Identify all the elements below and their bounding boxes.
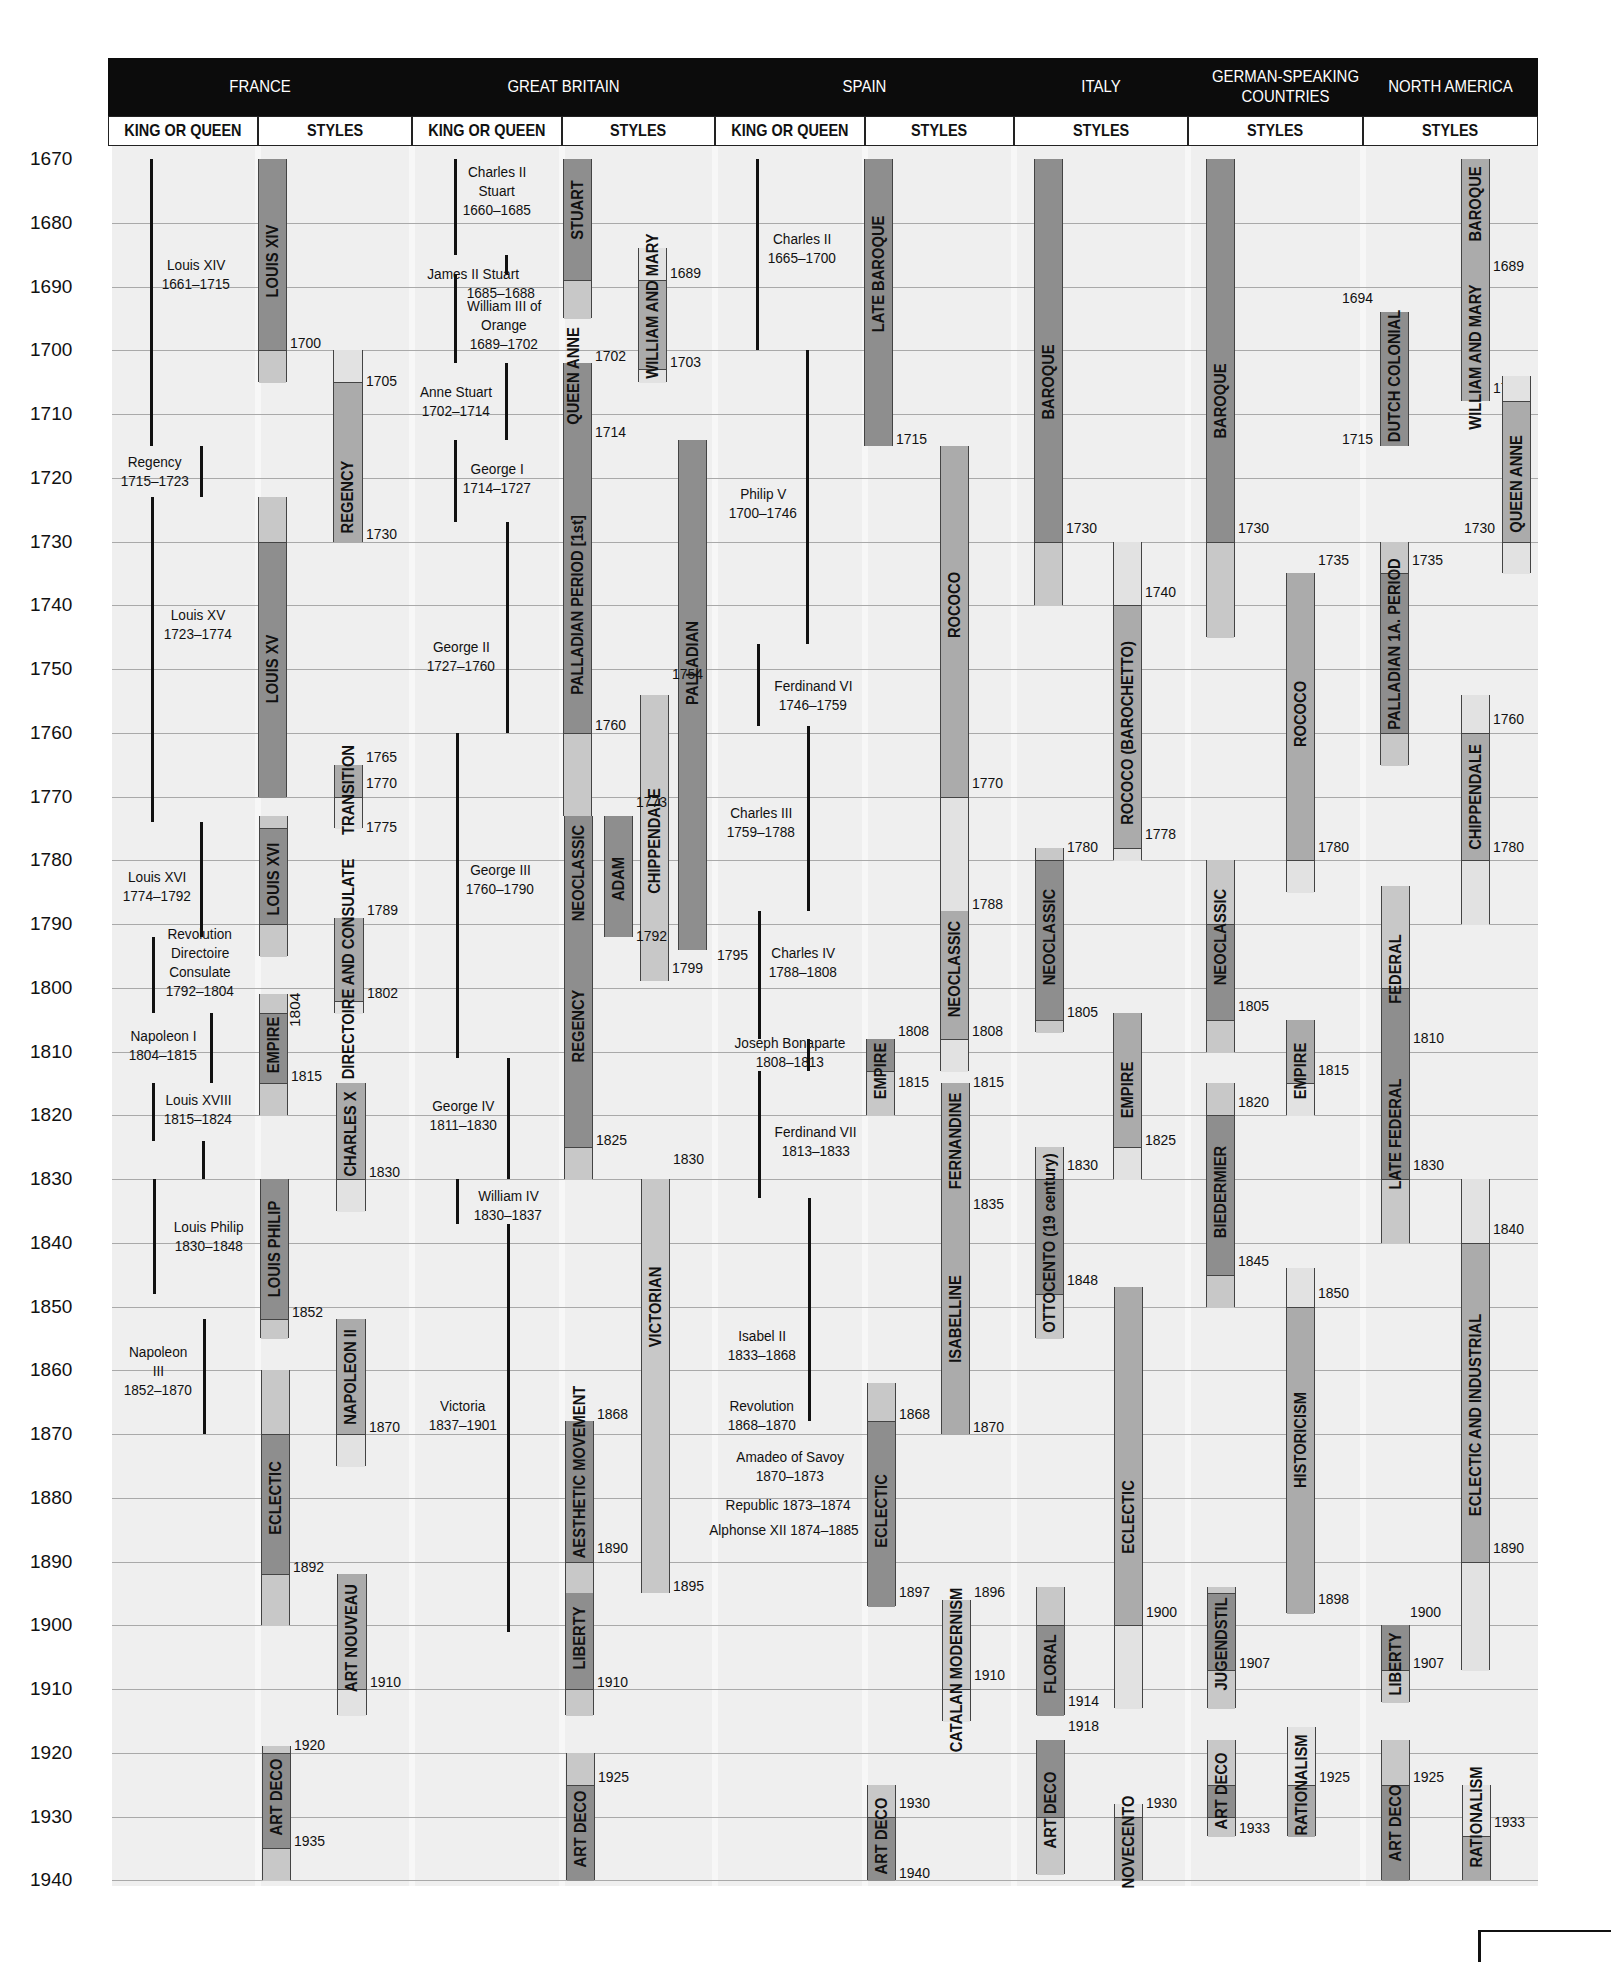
- style-year-label: 1925: [598, 1768, 629, 1786]
- style-bar-label: ECLECTIC: [1120, 1480, 1138, 1554]
- year-tick-label: 1800: [30, 977, 90, 999]
- reign-label-line: Ferdinand VII: [775, 1122, 857, 1141]
- style-bar-segment: [259, 497, 286, 542]
- year-tick-label: 1760: [30, 722, 90, 744]
- style-year-label: 1920: [294, 1736, 325, 1754]
- year-tick-label: 1830: [30, 1168, 90, 1190]
- style-year-label: 1735: [1318, 551, 1349, 569]
- reign-label-line: 1808–1813: [756, 1052, 824, 1071]
- style-bar-label: BIEDERMIER: [1212, 1146, 1230, 1238]
- year-tick-label: 1910: [30, 1678, 90, 1700]
- style-year-label: 1933: [1494, 1813, 1525, 1831]
- gridline: [112, 1562, 1538, 1563]
- style-bar-label: PALLADIAN PERIOD [1st]: [569, 515, 587, 695]
- style-bar-label: BAROQUE: [1212, 364, 1230, 439]
- year-tick-label: 1840: [30, 1232, 90, 1254]
- style-bar-label: OTTOCENTO (19 century): [1041, 1153, 1059, 1332]
- gridline: [112, 1115, 1538, 1116]
- style-year-label: 1730: [1066, 519, 1097, 537]
- subcolumn-header-label: STYLES: [1422, 121, 1478, 141]
- style-year-label: 1702: [595, 347, 626, 365]
- style-bar-label: ISABELLINE: [947, 1275, 965, 1363]
- style-year-label: 1689: [1493, 257, 1524, 275]
- reign-label-line: Charles III: [730, 803, 792, 822]
- style-bar-label: REGENCY: [570, 990, 588, 1063]
- style-bar-segment: [1381, 733, 1408, 766]
- reign-label-line: 1689–1702: [470, 334, 538, 353]
- gridline: [112, 1434, 1538, 1435]
- style-year-label: 1703: [670, 353, 701, 371]
- reign-label-line: George II: [433, 637, 490, 656]
- style-bar-label: LOUIS PHILIP: [266, 1201, 284, 1298]
- country-header: GREAT BRITAIN: [430, 58, 697, 116]
- style-year-label: 1830: [1413, 1156, 1444, 1174]
- reign-duration-line: [150, 159, 153, 446]
- style-bar-label: ART DECO: [1213, 1753, 1231, 1830]
- style-bar-label: FEDERAL: [1387, 934, 1405, 1004]
- reign-duration-line: [202, 1141, 205, 1179]
- style-bar-label: ROCOCO: [1292, 681, 1310, 747]
- year-tick-label: 1670: [30, 148, 90, 170]
- style-bar-label: CHARLES X: [342, 1092, 360, 1177]
- reign-label: George IV1811–1830: [373, 1096, 553, 1134]
- reign-label: George III1760–1790: [410, 860, 590, 898]
- gridline: [112, 1817, 1538, 1818]
- year-tick-label: 1710: [30, 403, 90, 425]
- style-year-label: 1740: [1145, 583, 1176, 601]
- style-year-label: 1760: [1493, 710, 1524, 728]
- country-header: GERMAN-SPEAKING COUNTRIES: [1200, 58, 1372, 116]
- reign-label-line: 1792–1804: [166, 981, 234, 1000]
- style-bar-label: EMPIRE: [1292, 1042, 1310, 1098]
- style-bar-segment: [1462, 1562, 1489, 1671]
- style-year-label: 1754: [672, 665, 703, 683]
- gridline: [112, 1179, 1538, 1180]
- reign-label: James II Stuart: [383, 264, 563, 283]
- style-year-label: 1789: [367, 901, 398, 919]
- style-bar-segment: [642, 1179, 669, 1593]
- style-year-label: 1870: [369, 1418, 400, 1436]
- reign-label-line: William IV: [478, 1186, 539, 1205]
- style-year-label: 1778: [1145, 825, 1176, 843]
- style-bar-label: FERNANDINE: [947, 1093, 965, 1189]
- style-year-label: 1896: [974, 1583, 1005, 1601]
- subcolumn-header: STYLES: [865, 116, 1014, 146]
- gridline: [112, 924, 1538, 925]
- style-year-label: 1830: [369, 1163, 400, 1181]
- style-bar-label: PALLADIAN 1A. PERIOD: [1386, 558, 1404, 729]
- reign-label-line: 1788–1808: [769, 962, 837, 981]
- style-bar-label: ART DECO: [873, 1797, 891, 1874]
- style-bar-segment: [1037, 1587, 1064, 1625]
- style-year-label: 1770: [972, 774, 1003, 792]
- reign-label-line: 1746–1759: [779, 695, 847, 714]
- subcolumn-header-label: STYLES: [1247, 121, 1303, 141]
- style-bar-segment: [260, 1083, 287, 1116]
- subcolumn-header: STYLES: [1363, 116, 1538, 146]
- reign-label: Isabel II1833–1868: [672, 1326, 852, 1364]
- style-bar-label: EMPIRE: [1119, 1062, 1137, 1118]
- style-year-label: 1705: [366, 372, 397, 390]
- style-bar-segment: [260, 994, 287, 1013]
- style-bar-segment: [337, 1179, 365, 1212]
- reign-label-line: James II Stuart: [427, 264, 519, 283]
- year-tick-label: 1870: [30, 1423, 90, 1445]
- reign-label-line: Isabel II: [738, 1326, 786, 1345]
- year-tick-label: 1900: [30, 1614, 90, 1636]
- style-year-label: 1830: [1067, 1156, 1098, 1174]
- style-bar-segment: [262, 1574, 289, 1626]
- style-bar-segment: [1287, 860, 1314, 893]
- year-tick-label: 1930: [30, 1806, 90, 1828]
- reign-label: Ferdinand VII1813–1833: [726, 1122, 906, 1160]
- style-year-label: 1933: [1239, 1819, 1270, 1837]
- style-bar-label: LATE FEDERAL: [1387, 1079, 1405, 1190]
- reign-label-line: 1714–1727: [463, 478, 531, 497]
- style-bar-segment: [338, 1689, 366, 1716]
- reign-label-line: George I: [470, 459, 523, 478]
- year-tick-label: 1940: [30, 1869, 90, 1891]
- style-year-label: 1820: [1238, 1093, 1269, 1111]
- style-bar-segment: [564, 280, 591, 319]
- style-bar-label: LOUIS XIV: [264, 225, 282, 298]
- reign-label-line: Ferdinand VI: [774, 676, 852, 695]
- gridline: [112, 860, 1538, 861]
- free-year-label: 1900: [1410, 1603, 1441, 1621]
- style-year-label: 1918: [1068, 1717, 1099, 1735]
